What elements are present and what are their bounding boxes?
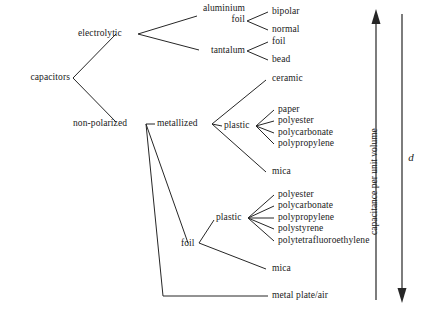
leaf-ptfe-foil: polytetrafluoroethylene [278, 236, 369, 246]
leaf-bipolar: bipolar [272, 7, 300, 17]
node-plastic-metallized: plastic [224, 121, 250, 131]
edge-electrolytic-aluminium [138, 16, 197, 34]
leaf-polycarbonate-foil: polycarbonate [278, 201, 333, 211]
node-aluminium-foil: aluminium foil [203, 3, 245, 25]
node-capacitors: capacitors [30, 73, 70, 83]
edge-foil-plastic [199, 220, 214, 243]
leaf-mica-metallized: mica [272, 167, 291, 177]
edge-plasticfoil-polycarbonate [248, 206, 274, 218]
leaf-polypropylene-metallized: polypropylene [278, 139, 334, 149]
edge-plasticfoil-ptfe [248, 218, 274, 241]
edge-aluminium-bipolar [247, 12, 268, 21]
node-plastic-foil: plastic [216, 213, 242, 223]
leaf-polystyrene-foil: polystyrene [278, 224, 323, 234]
edge-tantalum-foil [247, 42, 268, 51]
leaf-ceramic: ceramic [272, 74, 303, 84]
edge-metallized-ceramic [212, 80, 266, 124]
node-foil: foil [181, 239, 195, 249]
leaf-polyester-metallized: polyester [278, 116, 314, 126]
d-axis-arrowhead-icon [398, 288, 407, 303]
edge-foil-mica [199, 243, 266, 269]
capacitance-axis-arrowhead-icon [372, 9, 381, 24]
leaf-bead: bead [272, 55, 290, 65]
capacitance-axis-label: capacitance per unit volume [369, 128, 379, 235]
d-axis-label: d [408, 151, 414, 163]
edge-electrolytic-tantalum [138, 34, 199, 50]
edge-aluminium-normal [247, 21, 268, 30]
node-electrolytic: electrolytic [78, 29, 122, 39]
leaf-normal: normal [272, 25, 300, 35]
edge-plasticfoil-polyester [248, 195, 274, 218]
node-aluminium-foil-line2: foil [203, 14, 245, 25]
node-non-polarized: non-polarized [73, 119, 127, 129]
leaf-polyester-foil: polyester [278, 190, 314, 200]
edge-plastic-polycarbonate [256, 126, 274, 133]
edge-capacitors-electrolytic [73, 34, 116, 78]
edge-capacitors-nonpolarized [73, 78, 116, 122]
node-tantalum: tantalum [211, 46, 245, 56]
edge-metallized-mica [212, 124, 266, 172]
leaf-polycarbonate-metallized: polycarbonate [278, 128, 333, 138]
leaf-paper: paper [278, 105, 300, 115]
edge-plasticfoil-polystyrene [248, 218, 274, 229]
leaf-tantalum-foil: foil [272, 37, 286, 47]
leaf-polypropylene-foil: polypropylene [278, 213, 334, 223]
edge-plastic-polypropylene [256, 126, 274, 144]
leaf-mica-foil: mica [272, 264, 291, 274]
node-metallized: metallized [157, 119, 198, 129]
edge-tantalum-bead [247, 51, 268, 60]
edge-nonpolarized-metalplate [146, 124, 268, 296]
node-aluminium-foil-line1: aluminium [203, 3, 245, 14]
leaf-metal-plate-air: metal plate/air [272, 291, 328, 301]
